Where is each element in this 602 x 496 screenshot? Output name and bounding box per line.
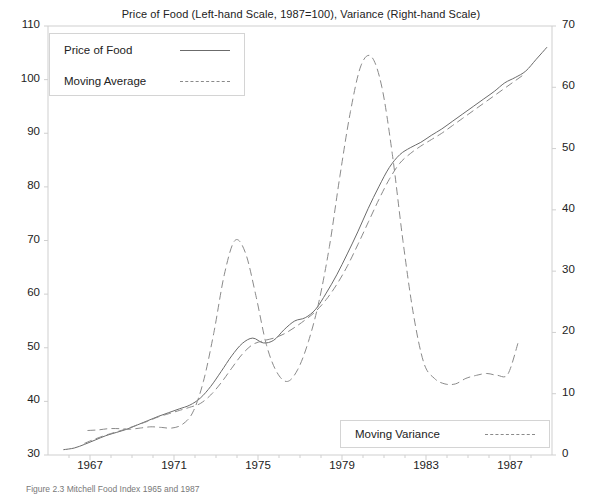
series-line-moving-average	[85, 73, 526, 443]
legend-row: Price of Food	[50, 34, 244, 65]
y-tick-label-right: 60	[562, 79, 596, 91]
y-tick-label-left: 100	[6, 72, 40, 84]
series-line-moving-variance	[88, 55, 519, 430]
legend-line-swatch-dashed	[485, 434, 535, 435]
y-tick-label-right: 20	[562, 324, 596, 336]
x-tick-label: 1967	[60, 459, 120, 471]
legend-label: Moving Variance	[355, 428, 440, 440]
legend-line-swatch-solid	[180, 50, 230, 51]
y-tick-label-left: 40	[6, 393, 40, 405]
x-tick-label: 1971	[144, 459, 204, 471]
figure-caption: Figure 2.3 Mitchell Food Index 1965 and …	[26, 484, 199, 494]
legend-row: Moving Variance	[341, 421, 549, 447]
x-tick-label: 1983	[396, 459, 456, 471]
data-series	[64, 47, 547, 449]
y-tick-label-right: 30	[562, 263, 596, 275]
y-tick-label-right: 0	[562, 447, 596, 459]
y-tick-label-left: 60	[6, 286, 40, 298]
y-tick-label-left: 80	[6, 179, 40, 191]
y-tick-label-left: 30	[6, 447, 40, 459]
series-line-price-of-food	[64, 47, 547, 449]
y-tick-label-right: 40	[562, 202, 596, 214]
legend-row: Moving Average	[50, 65, 244, 96]
legend-main: Price of FoodMoving Average	[49, 33, 245, 96]
y-tick-label-right: 70	[562, 18, 596, 30]
y-tick-label-right: 50	[562, 141, 596, 153]
legend-line-swatch-dashed	[180, 81, 230, 82]
legend-label: Price of Food	[64, 44, 132, 56]
y-tick-label-left: 50	[6, 340, 40, 352]
y-tick-label-right: 10	[562, 386, 596, 398]
y-tick-label-left: 110	[6, 18, 40, 30]
x-tick-label: 1975	[228, 459, 288, 471]
legend-moving-variance: Moving Variance	[340, 420, 550, 448]
y-tick-label-left: 90	[6, 125, 40, 137]
chart-figure: Price of Food (Left-hand Scale, 1987=100…	[0, 0, 602, 496]
x-tick-label: 1979	[312, 459, 372, 471]
y-tick-label-left: 70	[6, 233, 40, 245]
legend-label: Moving Average	[64, 75, 146, 87]
x-tick-label: 1987	[480, 459, 540, 471]
